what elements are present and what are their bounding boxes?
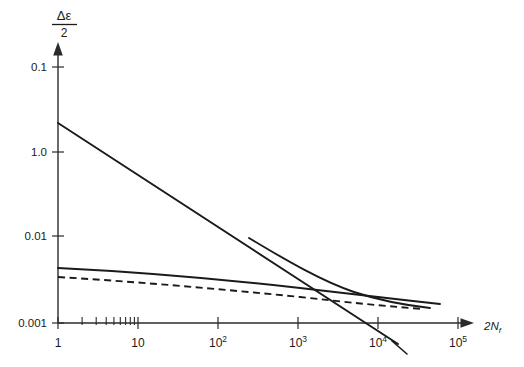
- series-total-strain-curve: [249, 238, 430, 308]
- y-tick-label-2: 0.01: [25, 230, 47, 242]
- y-tick-label-1: 1.0: [31, 146, 47, 158]
- x-tick-label-3-exponent: 3: [302, 334, 307, 344]
- y-tick-label-3: 0.001: [18, 317, 47, 329]
- x-tick-label-0-base: 1: [55, 336, 62, 350]
- x-axis-title-main: 2N: [483, 320, 499, 332]
- series-plastic-strain-line: [58, 123, 398, 344]
- x-axis-arrow-icon: [461, 318, 475, 328]
- x-tick-label-2-exponent: 2: [222, 334, 227, 344]
- x-tick-label-5-base: 10: [449, 336, 463, 350]
- series-elastic-strain-line-solid: [58, 268, 440, 304]
- x-tick-label-1-base: 10: [131, 336, 145, 350]
- y-axis-title-numerator: Δε: [57, 8, 72, 23]
- x-axis-title: 2Nf: [483, 320, 502, 335]
- y-tick-label-0: 0.1: [31, 61, 47, 73]
- x-axis-group: 1 10 102 103 104 105: [55, 317, 474, 350]
- x-tick-label-2-base: 10: [209, 336, 223, 350]
- annotation-leader-stroke-icon: [392, 341, 407, 354]
- x-tick-label-0: 1: [55, 336, 62, 350]
- strain-life-figure: 0.1 1.0 0.01 0.001 Δε 2: [0, 0, 524, 367]
- x-tick-label-4-base: 10: [369, 336, 383, 350]
- y-axis-title-denominator: 2: [61, 26, 68, 40]
- y-axis-arrow-icon: [53, 42, 63, 56]
- chart-canvas: 0.1 1.0 0.01 0.001 Δε 2: [0, 0, 524, 367]
- x-axis-title-subscript: f: [499, 326, 502, 335]
- x-tick-label-3: 103: [289, 334, 307, 350]
- y-axis-title: Δε 2: [52, 8, 77, 40]
- x-tick-label-1: 10: [131, 336, 145, 350]
- data-curves-group: [58, 123, 440, 354]
- x-tick-label-3-base: 10: [289, 336, 303, 350]
- x-tick-label-4: 104: [369, 334, 387, 350]
- x-tick-label-2: 102: [209, 334, 227, 350]
- y-axis-group: 0.1 1.0 0.01 0.001: [18, 42, 64, 329]
- x-tick-label-5: 105: [449, 334, 467, 350]
- x-tick-label-5-exponent: 5: [462, 334, 467, 344]
